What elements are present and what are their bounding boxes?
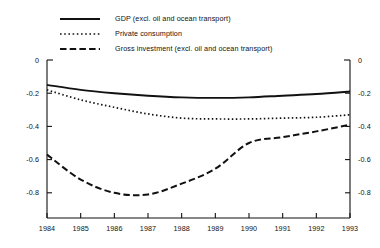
x-tick-label: 1992 (308, 224, 324, 233)
y-tick-label-right: -0.2 (358, 89, 371, 98)
y-tick-label-left: -0.8 (26, 188, 39, 197)
y-tick-label-right: -0.8 (358, 188, 371, 197)
x-tick-label: 1991 (274, 224, 290, 233)
y-tick-label-right: -0.4 (358, 122, 371, 131)
x-tick-label: 1990 (241, 224, 257, 233)
chart-axes (47, 60, 350, 218)
chart-series (47, 85, 350, 195)
y-tick-label-left: -0.2 (26, 89, 39, 98)
x-tick-label: 1987 (140, 224, 156, 233)
y-tick-label-right: 0 (358, 56, 362, 65)
y-tick-label-left: -0.6 (26, 155, 39, 164)
x-tick-label: 1986 (106, 224, 122, 233)
x-tick-label: 1993 (342, 224, 358, 233)
y-tick-label-left: -0.4 (26, 122, 39, 131)
chart-figure: GDP (excl. oil and ocean transport) Priv… (0, 0, 380, 248)
series-line-gross-investment (47, 125, 350, 196)
x-tick-label: 1985 (72, 224, 88, 233)
y-tick-label-left: 0 (35, 56, 39, 65)
series-line-gdp (47, 85, 350, 98)
x-tick-label: 1989 (207, 224, 223, 233)
x-tick-label: 1984 (39, 224, 55, 233)
x-tick-label: 1988 (173, 224, 189, 233)
y-tick-label-right: -0.6 (358, 155, 371, 164)
chart-plot: 00-0.2-0.2-0.4-0.4-0.6-0.6-0.8-0.8198419… (0, 0, 380, 248)
chart-tick-labels: 00-0.2-0.2-0.4-0.4-0.6-0.6-0.8-0.8198419… (26, 56, 371, 233)
